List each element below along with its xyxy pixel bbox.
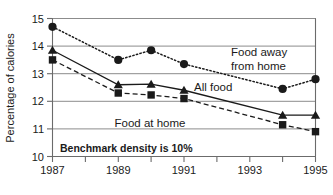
data-point-circle-1987	[48, 23, 56, 31]
data-point-square-1995	[312, 128, 319, 135]
y-tick-label-10: 10	[32, 151, 44, 163]
data-point-circle-1994	[279, 85, 287, 93]
all-food-label: All food	[194, 81, 232, 93]
x-tick-label-1989: 1989	[106, 164, 130, 176]
data-point-square-1989	[115, 89, 122, 96]
y-tick-label-14: 14	[32, 40, 44, 52]
food-at-home-label: Food at home	[115, 117, 186, 129]
data-point-circle-1991	[180, 60, 188, 68]
data-point-square-1994	[279, 121, 286, 128]
y-tick-label-12: 12	[32, 95, 44, 107]
data-point-circle-1990	[147, 46, 155, 54]
y-axis-title: Percentage of calories	[4, 33, 16, 143]
y-tick-label-13: 13	[32, 68, 44, 80]
y-tick-label-15: 15	[32, 13, 44, 25]
data-point-circle-1989	[114, 56, 122, 64]
y-tick-label-11: 11	[33, 123, 44, 135]
benchmark-note: Benchmark density is 10%	[60, 142, 193, 154]
x-tick-label-1987: 1987	[40, 164, 64, 176]
food-away-label-line2: from home	[231, 60, 286, 72]
chart-container: 15 14 13 12 11 10 1987 1989 1991 1993 19…	[0, 0, 333, 195]
x-tick-label-1993: 1993	[238, 164, 262, 176]
data-point-square-1987	[49, 56, 56, 63]
data-point-square-1990	[147, 91, 154, 98]
line-chart: 15 14 13 12 11 10 1987 1989 1991 1993 19…	[0, 0, 333, 195]
food-away-label-line1: Food away	[231, 46, 288, 58]
data-point-square-1991	[180, 95, 187, 102]
data-point-circle-1995	[311, 75, 319, 83]
x-tick-label-1991: 1991	[172, 164, 196, 176]
x-tick-label-1995: 1995	[303, 164, 327, 176]
